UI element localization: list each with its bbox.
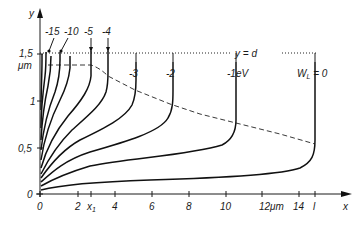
x-tick-label: 12μm (259, 201, 284, 212)
curve-label: -4 (102, 26, 111, 37)
x-tick-label: l (313, 201, 316, 212)
boundary-label: y = d (234, 48, 257, 59)
curve-label: -5 (84, 26, 93, 37)
x-axis-label: x (342, 201, 349, 212)
x-tick-label: 8 (186, 201, 192, 212)
curve-2 (41, 62, 236, 186)
curve-label: -3 (129, 68, 138, 79)
curve-1 (41, 62, 315, 190)
x-tick-label: 0 (37, 201, 43, 212)
x-tick-label: 10 (220, 201, 232, 212)
x-tick-label: 14 (293, 201, 305, 212)
curve-label: WL = 0 (297, 68, 328, 80)
x-tick-label: 6 (149, 201, 155, 212)
x-tick-label: 4 (112, 201, 118, 212)
y-unit-label: μm (17, 60, 32, 71)
curves (41, 51, 315, 190)
y-tick-label: 1,5 (19, 48, 33, 59)
leader-lines (47, 38, 315, 62)
y-axis-arrow-icon (37, 8, 43, 18)
x-axis-arrow-icon (341, 191, 352, 197)
curve-label: -1eV (227, 68, 249, 79)
y-ticks: 0 0,5 1 1,5 μm (17, 48, 43, 200)
x-tick-label: x1 (86, 201, 96, 213)
y-tick-label: 0 (27, 189, 33, 200)
y-tick-label: 0,5 (18, 143, 32, 154)
curve-label: -15 (45, 26, 60, 37)
y-tick-label: 1 (30, 96, 36, 107)
potential-curves-diagram: y x 0 0,5 1 1,5 μm 0 2 x1 4 6 8 10 12μm … (0, 0, 353, 227)
y-axis-label: y (28, 8, 35, 19)
curve-3 (41, 62, 173, 182)
curve-label: -10 (64, 26, 79, 37)
x-tick-label: 2 (74, 201, 81, 212)
curve-label: -2 (166, 68, 175, 79)
dashed-line (48, 65, 315, 144)
